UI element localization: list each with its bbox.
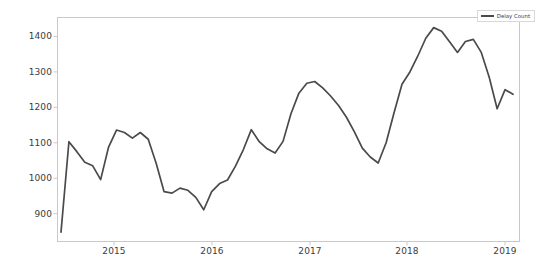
y-axis-tick-label: 1400 <box>4 31 52 41</box>
y-axis-tick-label: 900 <box>4 209 52 219</box>
y-axis-labels: 14001300120011001000900 <box>0 0 52 270</box>
x-axis-tick-label: 2018 <box>395 246 418 256</box>
x-axis-tick-label: 2016 <box>200 246 223 256</box>
chart-figure: 14001300120011001000900 2015201620172018… <box>0 0 544 270</box>
y-axis-tick-label: 1300 <box>4 67 52 77</box>
y-axis-tick-label: 1000 <box>4 173 52 183</box>
x-axis-tick-label: 2019 <box>493 246 516 256</box>
x-axis-tick-label: 2015 <box>102 246 125 256</box>
legend-entry-label: Delay Count <box>497 13 530 19</box>
y-axis-ticks <box>54 36 58 213</box>
x-axis-ticks <box>114 242 505 246</box>
legend-line-swatch-icon <box>481 15 494 17</box>
delay-count-line <box>61 28 513 232</box>
y-axis-tick-label: 1200 <box>4 102 52 112</box>
chart-legend: Delay Count <box>477 10 535 22</box>
x-axis-tick-label: 2017 <box>298 246 321 256</box>
y-axis-tick-label: 1100 <box>4 138 52 148</box>
chart-canvas <box>0 0 544 270</box>
